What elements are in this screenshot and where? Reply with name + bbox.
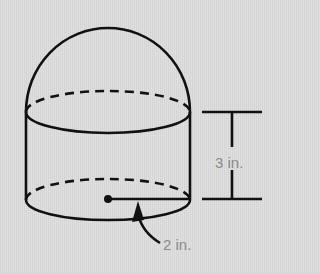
top-ellipse-front (26, 112, 190, 133)
hemisphere-outline (26, 28, 190, 112)
top-ellipse-back-dashed (26, 91, 190, 112)
arrowhead-icon (132, 201, 144, 222)
height-label: 3 in. (215, 154, 243, 171)
radius-label: 2 in. (163, 236, 191, 253)
composite-solid-diagram: 3 in. 2 in. (0, 0, 288, 274)
